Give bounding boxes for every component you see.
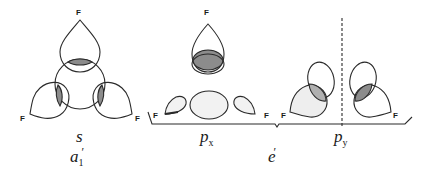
fluorine-label-right: F <box>135 115 140 123</box>
px-fluorine-label-left: F <box>153 112 158 120</box>
fluorine-label-left: F <box>20 115 25 123</box>
s-orbital-group <box>30 20 132 118</box>
px-center-orbital <box>190 91 228 119</box>
px-right-lobe <box>234 96 255 114</box>
e-prime-bracket <box>148 112 412 127</box>
py-label: py <box>334 128 348 148</box>
px-fluorine-label-right: F <box>264 112 269 120</box>
s-label: s <box>76 128 83 145</box>
overlap-left <box>56 85 62 106</box>
fluorine-label-top: F <box>76 9 81 17</box>
py-right-overlap <box>355 84 372 101</box>
py-fluorine-label-left: F <box>281 112 286 120</box>
px-left-lobe <box>165 96 186 114</box>
a1-prime-label: a1′ <box>70 146 84 168</box>
px-orbital-group <box>165 24 255 119</box>
px-fluorine-label-top: F <box>204 9 209 17</box>
py-fluorine-label-right: F <box>393 112 398 120</box>
px-label: px <box>200 128 214 148</box>
overlap-top <box>68 59 92 65</box>
e-prime-label: e′ <box>268 146 276 165</box>
py-orbital-group <box>290 60 391 117</box>
overlap-right <box>98 85 104 106</box>
left-fluorine-lobe <box>30 82 69 118</box>
px-top-overlap <box>193 50 223 70</box>
